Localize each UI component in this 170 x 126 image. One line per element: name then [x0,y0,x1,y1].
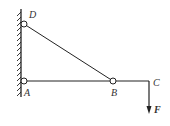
member-db [24,24,113,81]
pin-a [21,78,27,84]
pin-b [110,78,116,84]
pin-d [21,21,27,27]
label-c: C [153,77,160,88]
label-d: D [28,9,37,20]
label-f: F [153,104,161,115]
wall-support [17,9,21,97]
label-b: B [111,87,117,98]
label-a: A [23,87,31,98]
force-arrow-icon [147,81,152,114]
truss-diagram: D A B C F [0,0,170,126]
